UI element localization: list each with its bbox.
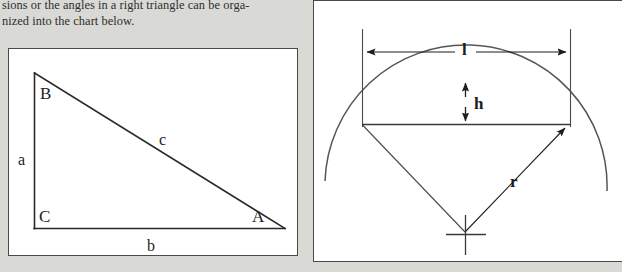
arc-label-h: h xyxy=(474,95,483,112)
triangle-label-a: a xyxy=(18,152,25,168)
body-paragraph: sions or the angles in a right triangle … xyxy=(2,0,302,29)
triangle-label-c: c xyxy=(159,132,166,148)
triangle-label-b: b xyxy=(147,238,155,254)
triangle-label-C: C xyxy=(39,208,50,225)
triangle-hypotenuse-c xyxy=(35,73,286,229)
figure-panel-right-triangle: B C A a b c xyxy=(8,48,298,256)
figure-panel-arc-chord: l h r xyxy=(313,0,622,262)
arc-label-l: l xyxy=(462,41,467,58)
page-root: sions or the angles in a right triangle … xyxy=(0,0,622,272)
body-text-line-2: nized into the chart below. xyxy=(2,14,302,30)
radius-line-left xyxy=(363,125,466,232)
triangle-label-B: B xyxy=(40,85,51,102)
triangle-label-A: A xyxy=(252,208,264,225)
body-text-line-1: sions or the angles in a right triangle … xyxy=(2,0,302,14)
arc-label-r: r xyxy=(510,173,518,190)
arc-chord-drawing xyxy=(314,1,622,261)
